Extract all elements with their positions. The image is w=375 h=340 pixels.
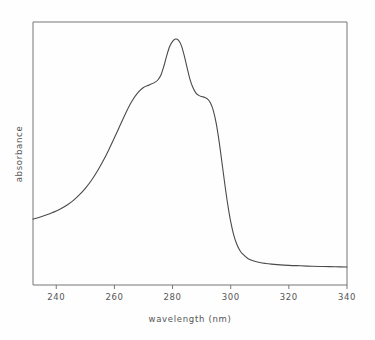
x-axis-title: wavelength (nm): [148, 314, 231, 324]
x-axis-tick-label: 240: [47, 292, 65, 302]
x-axis-tick-label: 300: [222, 292, 240, 302]
chart-page: 240260280300320340 wavelength (nm) absor…: [0, 0, 375, 340]
x-axis-tick-label: 260: [105, 292, 123, 302]
x-axis-tick-label: 280: [164, 292, 182, 302]
x-axis-tick-label: 340: [338, 292, 356, 302]
y-axis-title: absorbance: [14, 126, 24, 183]
x-axis-tick-label: 320: [280, 292, 298, 302]
absorbance-spectrum-chart: 240260280300320340 wavelength (nm) absor…: [0, 0, 375, 340]
